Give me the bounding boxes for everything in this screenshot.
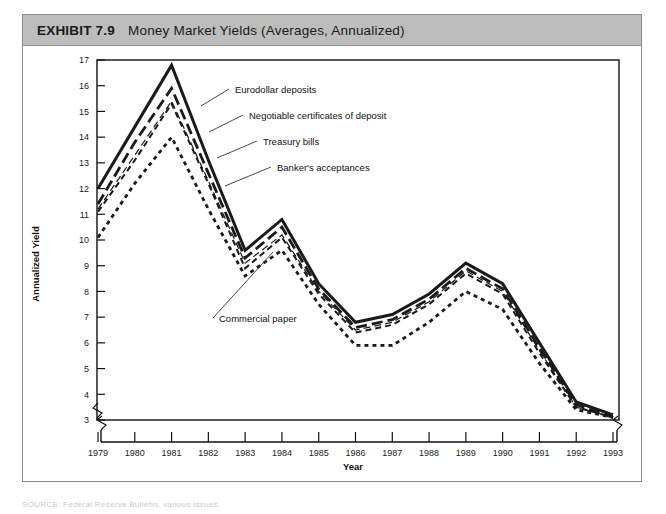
- exhibit-number: EXHIBIT 7.9: [37, 23, 115, 38]
- series-line: [98, 137, 613, 417]
- series-line: [98, 88, 613, 417]
- x-tick-label: 1992: [566, 448, 586, 458]
- y-tick-label: 15: [79, 107, 89, 117]
- source-credit: SOURCE: Federal Reserve Bulletin, variou…: [22, 500, 220, 509]
- x-axis-title: Year: [343, 461, 363, 472]
- x-tick-label: 1981: [162, 448, 182, 458]
- y-tick-label: 13: [79, 158, 89, 168]
- y-axis-title: Annualized Yield: [30, 226, 41, 302]
- x-tick-label: 1990: [493, 448, 513, 458]
- exhibit-title: Money Market Yields (Averages, Annualize…: [128, 23, 405, 38]
- x-tick-label: 1979: [88, 448, 108, 458]
- y-tick-label: 17: [79, 55, 89, 65]
- x-tick-label: 1983: [235, 448, 255, 458]
- y-tick-label: 11: [80, 210, 89, 220]
- series-annotation: Eurodollar deposits: [235, 84, 317, 95]
- series-line: [98, 101, 613, 417]
- x-tick-label: 1987: [382, 448, 402, 458]
- series-annotation: Negotiable certificates of deposit: [249, 110, 387, 121]
- series-annotation: Banker's acceptances: [277, 162, 370, 173]
- exhibit-header: EXHIBIT 7.9 Money Market Yields (Average…: [23, 15, 641, 46]
- chart-area: 34567891011121314151617 1979198019811982…: [23, 46, 641, 482]
- x-tick-label: 1993: [603, 448, 623, 458]
- x-tick-label: 1991: [529, 448, 549, 458]
- series-annotation: Commercial paper: [219, 313, 297, 324]
- x-tick-label: 1985: [309, 448, 329, 458]
- y-tick-label: 12: [79, 184, 89, 194]
- y-tick-label: 14: [79, 132, 89, 142]
- x-tick-label: 1982: [198, 448, 218, 458]
- y-tick-label: 8: [84, 287, 89, 297]
- y-tick-label: 6: [84, 338, 89, 348]
- y-tick-label: 16: [79, 81, 89, 91]
- y-tick-label: 10: [79, 235, 89, 245]
- x-tick-labels: 1979198019811982198319841985198619871988…: [88, 448, 623, 458]
- x-tick-label: 1989: [456, 448, 476, 458]
- y-tick-label: 4: [84, 390, 89, 400]
- x-tick-label: 1984: [272, 448, 292, 458]
- x-tick-label: 1986: [345, 448, 365, 458]
- series-annotation: Treasury bills: [263, 136, 319, 147]
- exhibit-panel: EXHIBIT 7.9 Money Market Yields (Average…: [22, 14, 642, 482]
- y-tick-labels: 34567891011121314151617: [79, 55, 89, 425]
- x-tick-label: 1988: [419, 448, 439, 458]
- y-tick-label: 9: [84, 261, 89, 271]
- y-tick-label: 5: [84, 364, 89, 374]
- x-tick-label: 1980: [125, 448, 145, 458]
- y-tick-label: 3: [84, 415, 89, 425]
- annotation-group: Eurodollar depositsNegotiable certificat…: [201, 84, 387, 324]
- line-chart: 34567891011121314151617 1979198019811982…: [23, 46, 641, 482]
- series-line: [98, 104, 613, 418]
- y-tick-label: 7: [84, 312, 89, 322]
